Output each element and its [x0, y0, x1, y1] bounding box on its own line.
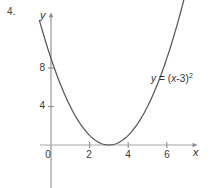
parabola-figure: 4. y x 8 4 0 2 4 6 y = (x-3)2: [0, 0, 212, 188]
equation-annotation: y = (x-3)2: [151, 72, 193, 84]
x-tick-label-0: 0: [41, 150, 55, 160]
problem-number: 4.: [7, 7, 15, 17]
x-tick-label-2: 2: [82, 150, 96, 160]
y-axis-arrow-icon: [49, 13, 54, 18]
y-tick-label-8: 8: [33, 63, 45, 73]
plot-canvas: [0, 0, 212, 188]
x-axis-label: x: [193, 147, 199, 158]
x-tick-label-4: 4: [121, 150, 135, 160]
equation-rest: -3): [176, 73, 189, 84]
equation-exponent: 2: [189, 72, 193, 79]
y-tick-label-4: 4: [33, 101, 45, 111]
x-tick-label-6: 6: [160, 150, 174, 160]
equation-operator: = (: [156, 73, 171, 84]
y-axis-label: y: [40, 10, 46, 21]
